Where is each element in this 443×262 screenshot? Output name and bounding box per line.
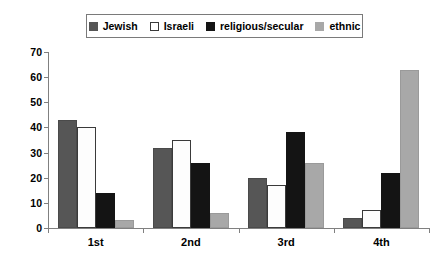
bar-group (248, 52, 324, 228)
bar-religious-secular (381, 173, 400, 228)
bar-jewish (153, 148, 172, 228)
legend-swatch-ethnic (315, 22, 324, 31)
legend-swatch-jewish (89, 22, 98, 31)
bar-group (153, 52, 229, 228)
bar-israeli (172, 140, 191, 228)
bar-religious-secular (96, 193, 115, 228)
bar-jewish (248, 178, 267, 228)
y-axis-tick-label: 30 (14, 147, 42, 159)
bar-group (343, 52, 419, 228)
bar-jewish (343, 218, 362, 228)
y-axis-tick-label: 60 (14, 71, 42, 83)
chart-legend: Jewish Israeli religious/secular ethnic (86, 14, 363, 38)
legend-item-jewish: Jewish (89, 21, 138, 32)
x-axis-tick-mark (429, 228, 430, 233)
y-axis-tick-label: 20 (14, 172, 42, 184)
x-axis-label-3rd: 3rd (256, 236, 316, 248)
bar-israeli (267, 185, 286, 228)
bar-israeli (362, 210, 381, 228)
x-axis-label-4th: 4th (351, 236, 411, 248)
y-axis-tick-label: 50 (14, 96, 42, 108)
bar-ethnic (115, 220, 134, 228)
bar-group (58, 52, 134, 228)
bar-ethnic (400, 70, 419, 228)
bar-chart: Jewish Israeli religious/secular ethnic … (0, 0, 443, 262)
legend-item-israeli: Israeli (150, 21, 194, 32)
x-axis-tick-mark (239, 228, 240, 233)
bar-israeli (77, 127, 96, 228)
bar-religious-secular (286, 132, 305, 228)
x-axis-tick-mark (334, 228, 335, 233)
bar-jewish (58, 120, 77, 228)
y-axis-tick-label: 10 (14, 197, 42, 209)
legend-swatch-israeli (150, 22, 159, 31)
x-axis-tick-mark (48, 228, 49, 233)
legend-label-ethnic: ethnic (329, 21, 360, 32)
legend-swatch-religious-secular (206, 22, 215, 31)
y-axis-tick-label: 70 (14, 46, 42, 58)
plot-area (48, 52, 429, 228)
legend-label-jewish: Jewish (103, 21, 138, 32)
x-axis-label-2nd: 2nd (161, 236, 221, 248)
x-axis-label-1st: 1st (66, 236, 126, 248)
legend-item-religious-secular: religious/secular (206, 21, 303, 32)
bar-ethnic (210, 213, 229, 228)
x-axis-tick-mark (143, 228, 144, 233)
y-axis-tick-label: 0 (14, 222, 42, 234)
legend-label-israeli: Israeli (164, 21, 194, 32)
legend-label-religious-secular: religious/secular (220, 21, 303, 32)
bar-ethnic (305, 163, 324, 228)
y-axis-tick-label: 40 (14, 121, 42, 133)
bar-religious-secular (191, 163, 210, 228)
legend-item-ethnic: ethnic (315, 21, 360, 32)
